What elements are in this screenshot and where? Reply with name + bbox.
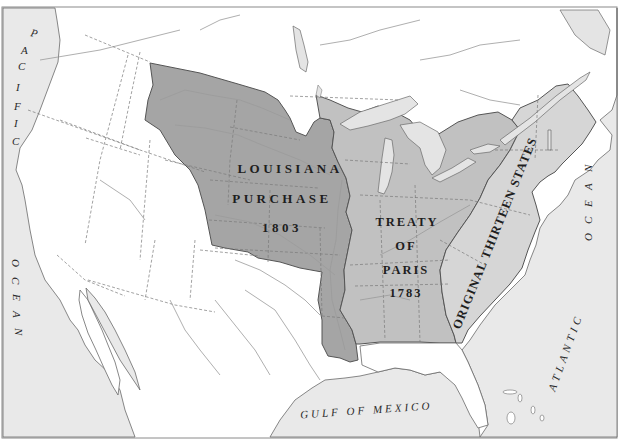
svg-text:F: F xyxy=(13,100,21,112)
svg-text:C: C xyxy=(18,60,26,72)
svg-text:A: A xyxy=(20,44,28,56)
svg-text:O: O xyxy=(582,233,594,241)
svg-text:C: C xyxy=(10,277,22,285)
svg-text:N: N xyxy=(582,164,594,173)
treaty-line-4: 1783 xyxy=(390,286,423,300)
louisiana-line-2: PURCHASE xyxy=(232,191,332,206)
svg-text:C: C xyxy=(12,135,20,147)
svg-text:A: A xyxy=(11,310,23,318)
svg-text:N: N xyxy=(13,327,25,336)
treaty-line-3: PARIS xyxy=(383,263,430,277)
louisiana-line-1: LOUISIANA xyxy=(237,161,342,176)
svg-text:E: E xyxy=(11,293,23,301)
svg-text:O: O xyxy=(10,259,22,267)
treaty-line-2: OF xyxy=(395,239,416,253)
lake-champlain xyxy=(548,130,551,150)
svg-text:A: A xyxy=(582,183,594,191)
territorial-expansion-map: LOUISIANA PURCHASE 1803 TREATY OF PARIS … xyxy=(0,0,621,442)
louisiana-line-3: 1803 xyxy=(262,220,302,235)
svg-text:C: C xyxy=(582,216,594,224)
svg-text:E: E xyxy=(582,200,594,208)
treaty-line-1: TREATY xyxy=(375,215,438,229)
